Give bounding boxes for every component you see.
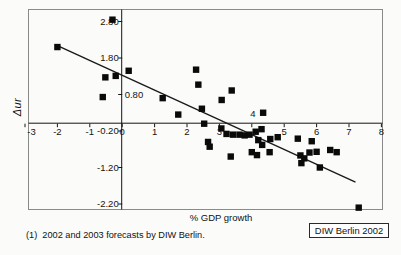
data-point bbox=[259, 142, 265, 148]
data-point bbox=[195, 81, 201, 87]
y-tick-label: 0.80 bbox=[125, 89, 144, 100]
y-tick-label: -1.20 bbox=[97, 162, 119, 173]
y-tick-label: 1.80 bbox=[100, 52, 119, 63]
y-tick-label: -0.20 bbox=[97, 125, 119, 136]
data-point bbox=[125, 68, 131, 74]
plot-frame bbox=[29, 10, 383, 210]
data-point bbox=[275, 134, 281, 140]
data-point bbox=[258, 126, 264, 132]
data-point bbox=[306, 149, 312, 155]
data-point bbox=[229, 87, 235, 93]
data-point bbox=[246, 131, 252, 137]
x-tick-label: 0 bbox=[120, 126, 125, 137]
x-tick-label: 2 bbox=[184, 126, 189, 137]
okun-scatter-figure: -3-2-10123456782.801.800.80-0.20-1.20-2.… bbox=[0, 0, 401, 255]
data-point bbox=[266, 149, 272, 155]
data-point bbox=[313, 149, 319, 155]
data-point bbox=[223, 131, 229, 137]
data-point bbox=[309, 138, 315, 144]
x-tick-label: 4 bbox=[250, 108, 255, 119]
data-point bbox=[206, 143, 212, 149]
data-point bbox=[218, 125, 224, 131]
source-box: DIW Berlin 2002 bbox=[309, 223, 389, 238]
data-point bbox=[100, 94, 106, 100]
data-point bbox=[252, 129, 258, 135]
y-axis-title: Δur bbox=[11, 86, 25, 128]
data-point bbox=[327, 147, 333, 153]
data-point bbox=[218, 97, 224, 103]
x-tick-label: 6 bbox=[314, 126, 319, 137]
x-axis-title: % GDP growth bbox=[160, 212, 282, 223]
data-point bbox=[295, 135, 301, 141]
data-point bbox=[317, 164, 323, 170]
y-tick-label: -2.20 bbox=[97, 198, 119, 209]
x-tick-label: -2 bbox=[53, 126, 61, 137]
data-point bbox=[160, 95, 166, 101]
data-point bbox=[230, 131, 236, 137]
x-tick-label: 1 bbox=[152, 126, 157, 137]
data-point bbox=[228, 153, 234, 159]
data-point bbox=[193, 66, 199, 72]
data-point bbox=[201, 121, 207, 127]
data-point bbox=[298, 160, 304, 166]
x-tick-label: 8 bbox=[379, 126, 384, 137]
data-point bbox=[175, 111, 181, 117]
data-point bbox=[254, 152, 260, 158]
x-tick-label: -3 bbox=[27, 126, 35, 137]
data-point bbox=[109, 16, 115, 22]
data-point bbox=[113, 73, 119, 79]
data-point bbox=[199, 106, 205, 112]
data-point bbox=[356, 204, 362, 210]
source-box-label: DIW Berlin 2002 bbox=[315, 225, 383, 236]
footnote: (1) 2002 and 2003 forecasts by DIW Berli… bbox=[26, 230, 205, 240]
data-point bbox=[260, 110, 266, 116]
x-tick-label: 5 bbox=[282, 126, 287, 137]
data-point bbox=[333, 149, 339, 155]
data-point bbox=[102, 74, 108, 80]
x-tick-label: -1 bbox=[86, 126, 94, 137]
data-point bbox=[54, 44, 60, 50]
data-point bbox=[267, 136, 273, 142]
x-tick-label: 7 bbox=[346, 126, 351, 137]
